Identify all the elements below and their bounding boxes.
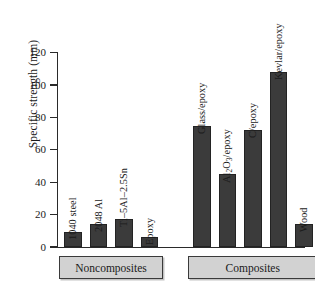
y-axis-tick-mark (50, 182, 57, 183)
bar-label: Al2O3/epoxy (221, 129, 233, 183)
bar-label: Glass/epoxy (196, 82, 207, 133)
y-axis-tick-mark (50, 117, 57, 118)
bar (219, 174, 237, 247)
group-box-noncomposites: Noncomposites (59, 256, 163, 279)
bar-label: Kevlar/epoxy (273, 23, 284, 80)
bar-label: 2048 Al (93, 199, 104, 232)
y-axis-tick-label: 60 (16, 142, 46, 157)
y-axis-tick-label: 20 (16, 207, 46, 222)
y-axis-tick-mark (50, 149, 57, 150)
bar (193, 126, 211, 248)
bar-chart: Specific strength (mm) 020406080100120 1… (0, 0, 315, 295)
bar (270, 72, 288, 247)
bar (244, 130, 262, 247)
y-axis-tick-label: 80 (16, 110, 46, 125)
bar-label: C/epoxy (247, 103, 258, 138)
y-axis-tick-label: 0 (16, 240, 46, 255)
bar-label: Epoxy (144, 218, 155, 245)
y-axis-line (57, 52, 58, 248)
group-box-composites: Composites (188, 256, 315, 279)
y-axis-title: Specific strength (mm) (27, 0, 39, 189)
bar-label: Ti–5Al–2.5Sn (118, 169, 129, 228)
y-axis-tick-mark (50, 246, 57, 247)
y-axis-tick-label: 120 (16, 45, 46, 60)
group-box-label: Composites (226, 262, 280, 274)
bar-label: Wood (298, 208, 309, 233)
y-axis-tick-mark (50, 214, 57, 215)
y-axis-tick-mark (50, 84, 57, 85)
bar-label: 1040 steel (67, 198, 78, 241)
y-axis-tick-label: 100 (16, 78, 46, 93)
group-box-label: Noncomposites (75, 262, 147, 274)
y-axis-tick-label: 40 (16, 175, 46, 190)
y-axis-tick-mark (50, 52, 57, 53)
